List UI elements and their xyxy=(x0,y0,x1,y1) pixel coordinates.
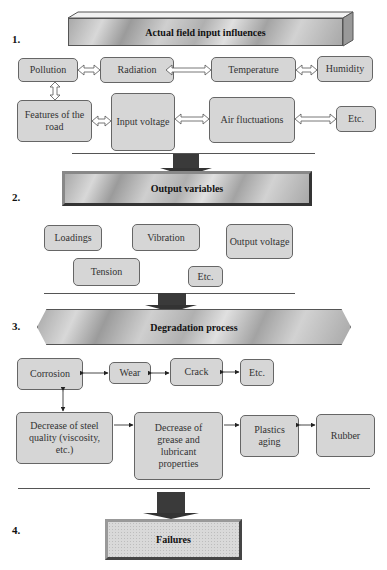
section-4-title: Failures xyxy=(105,519,242,560)
down-arrow-icon xyxy=(143,492,199,520)
connector-arrows xyxy=(0,0,387,570)
divider-3 xyxy=(18,488,370,489)
section-4-number: 4. xyxy=(12,524,20,536)
